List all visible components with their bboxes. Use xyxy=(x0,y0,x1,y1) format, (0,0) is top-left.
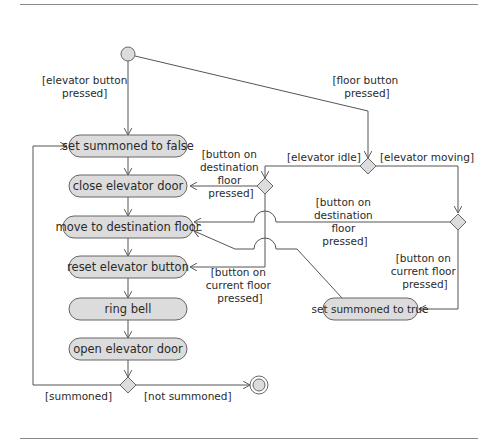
activity-label: move to destination floor xyxy=(55,220,200,234)
guard-summoned: [summoned] xyxy=(45,390,112,402)
guard-elevator-button-pressed: [elevator button pressed] xyxy=(42,74,131,99)
activity-label: ring bell xyxy=(105,302,152,316)
activity-label: set summoned to false xyxy=(62,139,194,153)
final-node xyxy=(250,376,268,394)
activity-label: close elevator door xyxy=(73,179,184,193)
decision-idle xyxy=(257,178,273,194)
activity-label: reset elevator button xyxy=(67,260,189,274)
decision-summoned xyxy=(120,377,136,393)
guard-current-floor-right: [button on current floor pressed] xyxy=(391,252,459,290)
decision-floor-state xyxy=(360,158,376,174)
initial-node xyxy=(121,47,135,61)
guard-elevator-moving: [elevator moving] xyxy=(380,151,474,163)
decision-moving xyxy=(450,214,466,230)
activity-label: set summoned to true xyxy=(312,303,429,315)
guard-not-summoned: [not summoned] xyxy=(144,390,232,402)
guard-floor-button-pressed: [floor button pressed] xyxy=(332,74,401,99)
activity-label: open elevator door xyxy=(73,342,183,356)
guard-dest-floor-left: [button on destination floor pressed] xyxy=(200,148,262,199)
activity-diagram: set summoned to false close elevator doo… xyxy=(0,0,498,446)
guard-elevator-idle: [elevator idle] xyxy=(287,151,361,163)
guard-current-floor-left: [button on current floor pressed] xyxy=(206,266,274,304)
